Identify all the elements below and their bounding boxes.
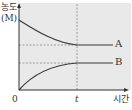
origin-label: 0 [12,95,18,104]
y-axis-label: 농도 (M) [0,3,18,23]
t-tick-label: t [75,95,79,104]
y-axis-title: 농도 [1,2,17,12]
series-b-label: B [115,57,122,67]
y-axis-unit: (M) [0,14,18,23]
x-axis-label: 시간 [113,95,129,104]
series-a-label: A [115,39,122,49]
